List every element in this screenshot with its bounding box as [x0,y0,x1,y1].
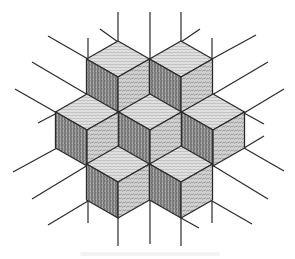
grid-line [244,148,284,171]
grid-line [212,165,268,199]
grid-line [38,113,57,123]
grid-line [212,35,256,59]
grid-line [212,201,252,224]
grid-line [48,36,88,59]
grid-line [32,62,88,95]
grid-line [15,89,57,113]
grid-line [100,29,118,42]
grid-line [32,165,88,199]
grid-line [13,148,57,172]
grid-line [48,201,88,225]
grid-line [244,89,284,113]
grid-line [212,62,268,95]
figure-caption [80,252,220,256]
grid-line [181,218,199,228]
grid-line [244,113,264,124]
isometric-cube-diagram [0,0,295,259]
grid-line [181,29,200,42]
cubes [56,41,245,218]
grid-line [244,136,264,148]
